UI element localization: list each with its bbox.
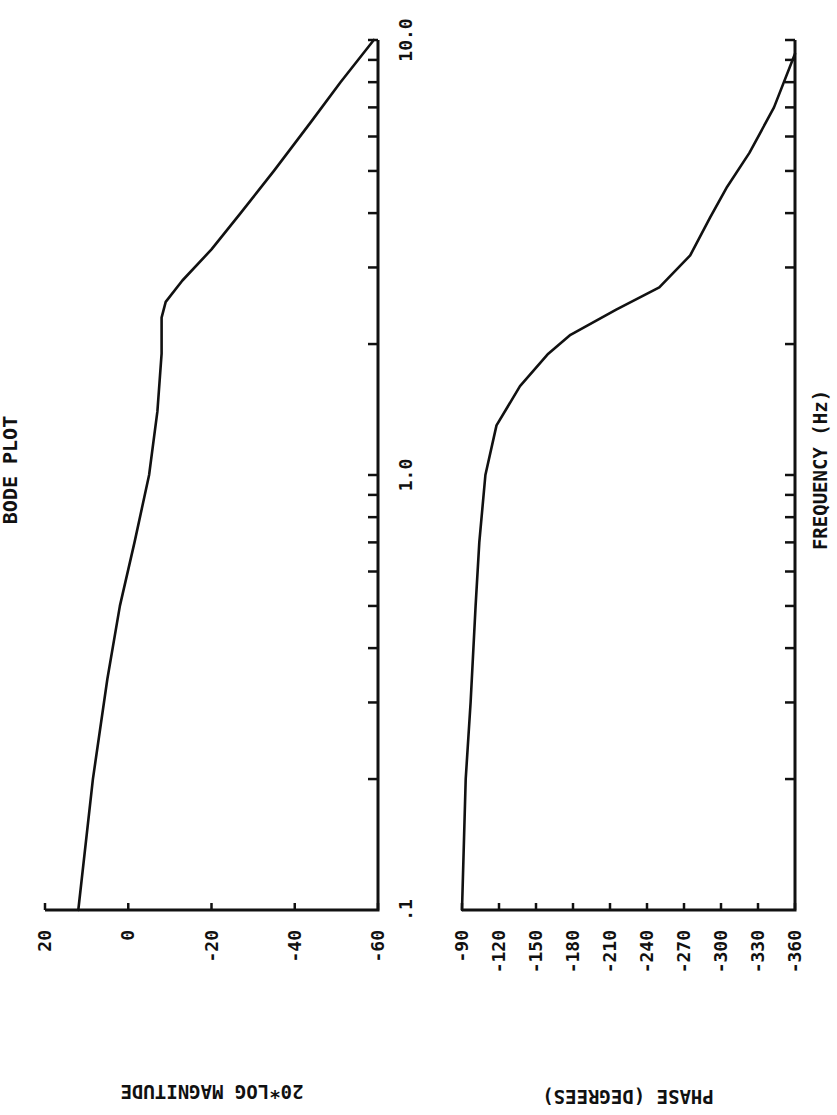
phase-panel: -90-120-150-180-210-240-270-300-330-360: [451, 40, 805, 973]
value-tick-label: -330: [747, 930, 768, 973]
freq-tick-label: 1.0: [395, 459, 416, 492]
value-tick-label: -150: [525, 930, 546, 973]
freq-tick-label: 10.0: [395, 18, 416, 61]
value-tick-label: -180: [562, 930, 583, 973]
value-tick-label: -300: [710, 930, 731, 973]
axis-frame: [45, 40, 378, 910]
freq-tick-label: .1: [395, 899, 416, 921]
value-tick-label: -360: [784, 930, 805, 973]
magnitude-curve: [78, 40, 374, 910]
value-tick-label: -90: [451, 930, 472, 963]
value-tick-label: -240: [636, 930, 657, 973]
phase-curve: [462, 54, 795, 910]
value-tick-label: 0: [117, 930, 138, 941]
x-axis-label: FREQUENCY (Hz): [809, 390, 831, 550]
phase-axis-label: PHASE (DEGREES): [542, 1086, 714, 1108]
axis-frame: [462, 40, 795, 910]
value-tick-label: -20: [201, 930, 222, 963]
bode-plot-canvas: BODE PLOT FREQUENCY (Hz) 20*LOG MAGNITUD…: [0, 0, 837, 1115]
magnitude-axis-label: 20*LOG MAGNITUDE: [120, 1081, 303, 1103]
value-tick-label: -210: [599, 930, 620, 973]
value-tick-label: -120: [488, 930, 509, 973]
chart-title: BODE PLOT: [0, 416, 22, 524]
value-tick-label: -270: [673, 930, 694, 973]
magnitude-panel: 200-20-40-60: [34, 40, 388, 963]
value-tick-label: 20: [34, 930, 55, 952]
value-tick-label: -40: [284, 930, 305, 963]
bode-plot-figure: BODE PLOT FREQUENCY (Hz) 20*LOG MAGNITUD…: [0, 0, 837, 1115]
value-tick-label: -60: [367, 930, 388, 963]
